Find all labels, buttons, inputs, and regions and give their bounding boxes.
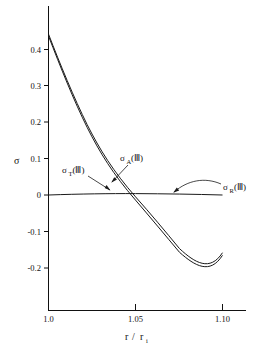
curve-sigma-T [49, 34, 223, 264]
axis-group [49, 6, 247, 311]
y-tick-labels: 0.4 0.3 0.2 0.1 0 -0.1 -0.2 [28, 45, 42, 274]
x-axis-title-denominator-subscript: i [146, 337, 148, 344]
figure-canvas: 0.4 0.3 0.2 0.1 0 -0.1 -0.2 1.0 1.05 1.1… [0, 0, 268, 351]
annotation-sigma-A-paren: (Ⅲ) [131, 153, 143, 163]
annotation-sigma-T: σ T (Ⅲ) [62, 165, 111, 191]
x-tick-labels: 1.0 1.05 1.10 [43, 314, 230, 324]
annotation-sigma-A-base: σ [120, 153, 125, 163]
x-tick-label-1.05: 1.05 [128, 314, 143, 324]
curve-sigma-A [49, 36, 223, 267]
annotation-sigma-R-leader-line [174, 180, 221, 192]
y-tick-label-0: 0 [37, 190, 41, 200]
y-tick-label-0.2: 0.2 [30, 117, 41, 127]
y-tick-label-0.3: 0.3 [30, 81, 41, 91]
y-tick-label--0.2: -0.2 [28, 263, 41, 273]
annotation-sigma-T-base: σ [62, 165, 67, 175]
x-axis-title: r / r i [125, 331, 148, 344]
curve-sigma-R [49, 194, 223, 195]
x-tick-marks [49, 304, 223, 311]
annotation-sigma-T-paren: (Ⅲ) [73, 165, 85, 175]
x-tick-label-1.10: 1.10 [215, 314, 230, 324]
annotation-sigma-R-base: σ [223, 182, 228, 192]
y-tick-label-0.1: 0.1 [30, 154, 41, 164]
y-axis-title: σ [14, 155, 20, 166]
x-axis-title-denominator: r [140, 331, 144, 342]
x-axis-title-slash: / [132, 331, 135, 342]
annotation-sigma-R-paren: (Ⅲ) [234, 182, 246, 192]
annotation-sigma-R: σ R (Ⅲ) [173, 180, 246, 194]
annotation-sigma-T-arrowhead [105, 185, 111, 191]
annotation-sigma-A: σ A (Ⅲ) [111, 153, 143, 183]
y-tick-label--0.1: -0.1 [28, 227, 41, 237]
data-curves [49, 34, 223, 267]
x-axis-title-numerator: r [125, 331, 129, 342]
y-tick-marks [44, 50, 49, 269]
x-tick-label-1.0: 1.0 [43, 314, 54, 324]
y-tick-label-0.4: 0.4 [30, 45, 41, 55]
